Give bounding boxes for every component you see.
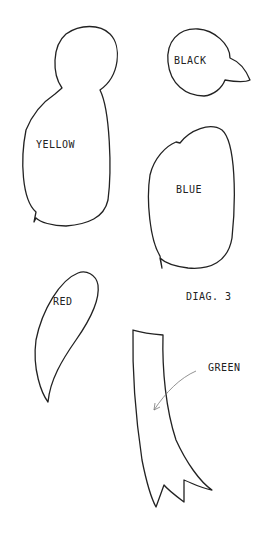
blue-shape-outline bbox=[148, 127, 234, 268]
red-label: RED bbox=[53, 296, 73, 307]
diagram-title: DIAG. 3 bbox=[186, 291, 232, 302]
yellow-shape-outline bbox=[23, 27, 118, 227]
blue-label: BLUE bbox=[176, 184, 202, 195]
green-shape-outline bbox=[133, 330, 212, 507]
yellow-label: YELLOW bbox=[36, 139, 75, 150]
black-label: BLACK bbox=[174, 55, 207, 66]
pattern-diagram bbox=[0, 0, 270, 549]
green-leader-arrow bbox=[154, 371, 196, 410]
green-label: GREEN bbox=[208, 362, 241, 373]
red-shape-outline bbox=[35, 272, 98, 402]
